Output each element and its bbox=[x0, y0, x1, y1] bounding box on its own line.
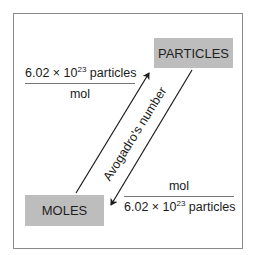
arrows-layer bbox=[0, 0, 254, 255]
